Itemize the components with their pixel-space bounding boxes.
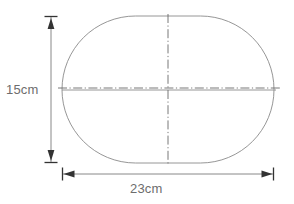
height-dimension-arrowhead-top <box>48 18 55 29</box>
height-dimension-label: 15cm <box>6 83 39 96</box>
height-dimension-group <box>45 17 58 163</box>
figure-root: 15cm 23cm <box>0 0 294 204</box>
dimension-drawing <box>0 0 294 204</box>
width-dimension-arrowhead-left <box>64 171 75 178</box>
width-dimension-group <box>62 168 274 181</box>
width-dimension-arrowhead-right <box>262 171 273 178</box>
height-dimension-arrowhead-bottom <box>48 150 55 161</box>
width-dimension-label: 23cm <box>130 182 163 195</box>
